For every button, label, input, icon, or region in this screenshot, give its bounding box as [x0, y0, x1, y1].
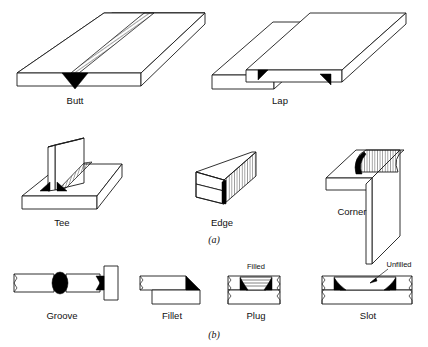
- groove-vertical-member: [104, 266, 118, 300]
- figure-canvas: Butt Lap: [0, 0, 428, 347]
- tee-base-plate-front: [22, 196, 97, 209]
- weld-label-slot: Slot: [360, 310, 377, 321]
- weld-label-fillet: Fillet: [162, 310, 182, 321]
- section-label-b: (b): [208, 329, 220, 341]
- welding-joints-figure: Butt Lap: [0, 0, 428, 347]
- joint-label-lap: Lap: [272, 95, 288, 106]
- slot-callout-unfilled: Unfilled: [386, 260, 411, 269]
- joint-lap: Lap: [212, 13, 406, 106]
- weld-slot: Unfilled Slot: [322, 260, 412, 321]
- joint-label-butt: Butt: [67, 95, 84, 106]
- weld-plug: Filled Plug: [228, 262, 280, 321]
- fillet-lower-plate: [152, 290, 200, 304]
- plug-callout-filled: Filled: [247, 262, 265, 271]
- joint-label-tee: Tee: [54, 217, 69, 228]
- slot-lower-plate: [322, 290, 412, 304]
- fillet-weld-triangle: [186, 276, 200, 290]
- joint-butt: Butt: [17, 13, 205, 106]
- joint-label-corner: Corner: [337, 206, 366, 217]
- section-label-a: (a): [208, 234, 220, 246]
- corner-horizontal-front: [326, 178, 372, 190]
- corner-vertical-front: [366, 178, 372, 264]
- fillet-upper-plate: [140, 276, 186, 290]
- groove-right-member: [66, 274, 100, 292]
- weld-label-groove: Groove: [46, 310, 77, 321]
- joint-tee: Tee: [22, 138, 122, 228]
- weld-groove: Groove: [14, 266, 118, 321]
- joint-label-edge: Edge: [211, 217, 233, 228]
- weld-label-plug: Plug: [246, 310, 265, 321]
- joint-edge: Edge: [196, 152, 256, 228]
- weld-fillet: Fillet: [140, 276, 200, 321]
- plug-lower-plate: [228, 290, 280, 304]
- groove-weld-fill: [52, 272, 68, 294]
- joint-corner: Corner: [326, 150, 404, 264]
- groove-left-member: [14, 274, 54, 292]
- edge-weld-root: [222, 180, 226, 204]
